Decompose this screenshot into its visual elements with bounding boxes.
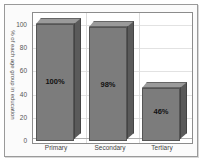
x-label-primary: Primary: [36, 144, 76, 151]
bar-side: [180, 82, 187, 139]
x-label-tertiary: Tertiary: [142, 144, 182, 151]
y-tick-0: 0: [10, 137, 27, 144]
data-label-primary: 100%: [36, 77, 74, 86]
bar-side: [127, 21, 134, 139]
bar-secondary: 98%: [89, 21, 135, 141]
vgridline: [86, 13, 87, 143]
y-tick-20: 20: [10, 114, 27, 121]
data-label-tertiary: 46%: [142, 107, 180, 116]
vgridline: [139, 13, 140, 143]
x-label-secondary: Secondary: [87, 144, 133, 151]
bar-tertiary: 46%: [142, 82, 188, 141]
y-tick-100: 100: [10, 21, 27, 28]
bar-side: [74, 18, 81, 139]
data-label-secondary: 98%: [89, 80, 127, 89]
y-tick-80: 80: [10, 44, 27, 51]
y-tick-40: 40: [10, 91, 27, 98]
y-tick-60: 60: [10, 67, 27, 74]
bar-primary: 100%: [36, 18, 82, 141]
